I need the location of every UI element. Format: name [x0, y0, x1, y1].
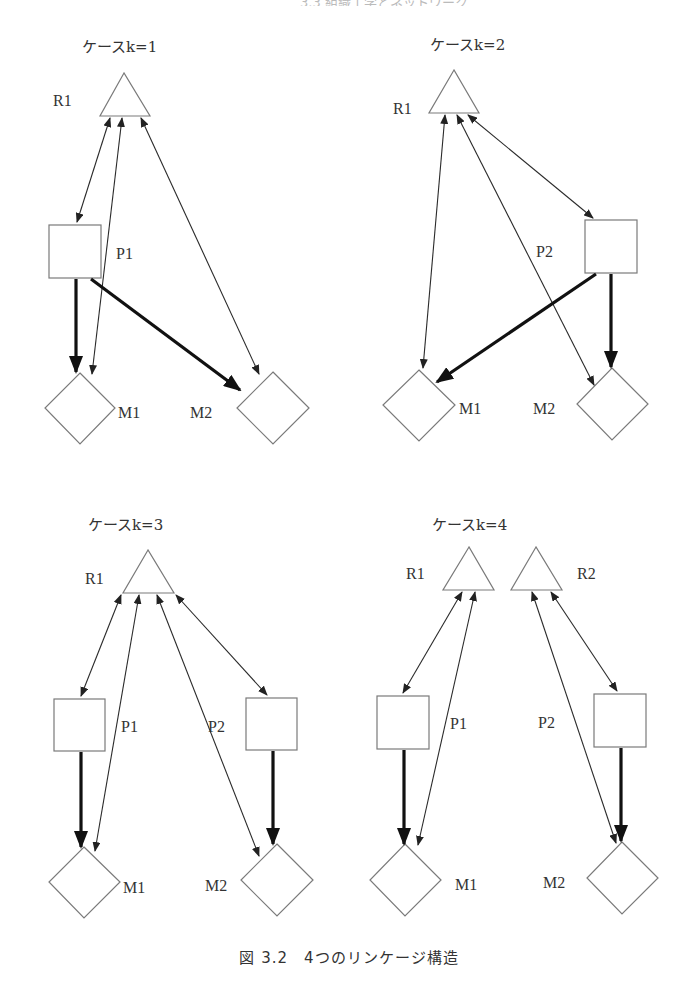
node-label-M2: M2 — [190, 404, 212, 421]
edge-R2-P2 — [551, 592, 617, 691]
resource-node-R1-triangle — [429, 70, 479, 113]
edge-P2-M1-heavy — [437, 274, 596, 382]
node-label-R1: R1 — [85, 570, 104, 587]
node-label-M1: M1 — [118, 404, 140, 421]
node-label-P2: P2 — [536, 243, 553, 260]
edge-R1-M2 — [157, 595, 259, 856]
panel-case-2: ケースk=2 R1 P2 M1 M2 — [383, 36, 648, 441]
case-title: ケースk=3 — [88, 516, 163, 534]
panel-case-4: ケースk=4 R1 R2 P1 P2 M1 M2 — [370, 516, 658, 916]
market-node-M2-diamond — [237, 372, 309, 444]
edge-R1-P2 — [468, 115, 593, 218]
node-label-R2: R2 — [577, 565, 596, 582]
market-node-M2-diamond — [577, 368, 648, 440]
node-label-M1: M1 — [123, 879, 145, 896]
node-label-M1: M1 — [459, 400, 481, 417]
resource-node-R1-triangle — [100, 73, 150, 116]
process-node-P2-square — [594, 694, 646, 747]
market-node-M1-diamond — [49, 847, 120, 918]
case-title: ケースk=2 — [430, 36, 505, 54]
resource-node-R1-triangle — [123, 550, 174, 593]
node-label-M2: M2 — [533, 400, 555, 417]
node-label-M1: M1 — [455, 876, 477, 893]
process-node-P2-square — [585, 220, 637, 273]
case-title: ケースk=4 — [432, 516, 507, 534]
panel-case-1: ケースk=1 R1 P1 M1 M2 — [45, 38, 309, 444]
edge-R1-P1 — [77, 118, 110, 222]
node-label-R1: R1 — [393, 100, 412, 117]
node-label-M2: M2 — [205, 877, 227, 894]
market-node-M2-diamond — [587, 842, 658, 914]
process-node-P1-square — [377, 696, 429, 749]
edge-R1-M1 — [423, 115, 445, 368]
resource-node-R1-triangle — [443, 547, 494, 590]
figure-caption: 図 3.2 4つのリンケージ構造 — [0, 946, 698, 967]
node-label-P1: P1 — [450, 715, 467, 732]
resource-node-R2-triangle — [511, 547, 562, 590]
node-label-M2: M2 — [543, 874, 565, 891]
market-node-M1-diamond — [383, 370, 455, 441]
node-label-P1: P1 — [116, 245, 133, 262]
case-title: ケースk=1 — [82, 38, 157, 56]
edge-P1-M2-heavy — [91, 279, 240, 390]
process-node-P1-square — [54, 699, 105, 751]
node-label-P1: P1 — [121, 718, 138, 735]
edge-R1-P1 — [403, 592, 462, 693]
market-node-M1-diamond — [45, 373, 115, 444]
market-node-M2-diamond — [241, 844, 313, 916]
process-node-P1-square — [49, 225, 101, 278]
node-label-R1: R1 — [406, 565, 425, 582]
edge-R1-P1 — [81, 595, 121, 696]
edge-R1-M2 — [457, 115, 594, 385]
node-label-P2: P2 — [538, 714, 555, 731]
node-label-R1: R1 — [53, 92, 72, 109]
panel-case-3: ケースk=3 R1 P1 P2 M1 M2 — [49, 516, 313, 918]
process-node-P2-square — [246, 698, 297, 750]
linkage-diagram: ケースk=1 R1 P1 M1 M2 ケースk=2 R1 P2 M1 M2 ケー — [0, 0, 698, 984]
edge-R1-M2 — [141, 118, 259, 374]
market-node-M1-diamond — [370, 844, 441, 916]
